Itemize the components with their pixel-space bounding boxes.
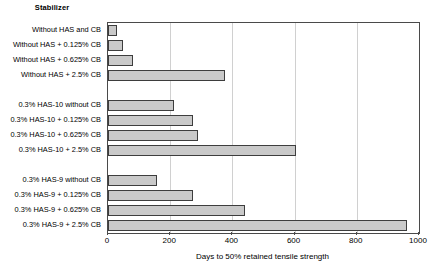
category-label: 0.3% HAS-10 + 0.125% CB bbox=[10, 115, 101, 124]
category-label-row: 0.3% HAS-10 without CB bbox=[0, 97, 104, 112]
category-label-row: Without HAS + 0.625% CB bbox=[0, 52, 104, 67]
bar bbox=[108, 115, 193, 126]
category-label-row: 0.3% HAS-9 without CB bbox=[0, 172, 104, 187]
category-axis: Without HAS and CBWithout HAS + 0.125% C… bbox=[0, 22, 104, 232]
bar bbox=[108, 145, 296, 156]
x-axis-tick-label: 1000 bbox=[398, 236, 438, 245]
bar-row bbox=[108, 203, 419, 218]
category-label-row: 0.3% HAS-10 + 0.125% CB bbox=[0, 112, 104, 127]
plot-area bbox=[107, 22, 420, 234]
category-label: 0.3% HAS-10 + 2.5% CB bbox=[19, 145, 101, 154]
bar-row bbox=[108, 23, 419, 38]
category-spacer bbox=[0, 82, 104, 97]
bar bbox=[108, 55, 133, 66]
bar-row bbox=[108, 38, 419, 53]
x-axis-tick-label: 800 bbox=[336, 236, 376, 245]
bar-row bbox=[108, 113, 419, 128]
bar bbox=[108, 130, 198, 141]
category-label-row: 0.3% HAS-10 + 0.625% CB bbox=[0, 127, 104, 142]
x-axis-tick bbox=[356, 232, 357, 235]
category-label-row: 0.3% HAS-9 + 2.5% CB bbox=[0, 217, 104, 232]
x-axis-tick-labels: 02004006008001000 bbox=[0, 236, 439, 248]
category-label-row: 0.3% HAS-9 + 0.625% CB bbox=[0, 202, 104, 217]
bar-row-empty bbox=[108, 83, 419, 98]
bar-chart: Stabilizer Without HAS and CBWithout HAS… bbox=[0, 0, 439, 270]
x-axis-tick bbox=[294, 232, 295, 235]
bar bbox=[108, 100, 174, 111]
bars-layer bbox=[108, 23, 419, 233]
category-spacer bbox=[0, 157, 104, 172]
bar-row-empty bbox=[108, 158, 419, 173]
category-label: 0.3% HAS-9 + 0.625% CB bbox=[15, 205, 101, 214]
bar-row bbox=[108, 188, 419, 203]
bar bbox=[108, 25, 117, 36]
category-label: 0.3% HAS-10 without CB bbox=[18, 100, 101, 109]
category-label: Without HAS and CB bbox=[32, 25, 101, 34]
category-label-row: Without HAS + 2.5% CB bbox=[0, 67, 104, 82]
category-label: 0.3% HAS-9 without CB bbox=[23, 175, 101, 184]
category-label-row: Without HAS + 0.125% CB bbox=[0, 37, 104, 52]
x-axis-tick-label: 0 bbox=[87, 236, 127, 245]
bar-row bbox=[108, 143, 419, 158]
x-axis-tick-label: 400 bbox=[211, 236, 251, 245]
category-label: 0.3% HAS-10 + 0.625% CB bbox=[10, 130, 101, 139]
bar bbox=[108, 220, 407, 231]
category-label: 0.3% HAS-9 + 0.125% CB bbox=[15, 190, 101, 199]
category-label: Without HAS + 0.625% CB bbox=[13, 55, 101, 64]
bar-row bbox=[108, 173, 419, 188]
x-axis-tick-label: 600 bbox=[274, 236, 314, 245]
stabilizer-column-header: Stabilizer bbox=[0, 3, 104, 12]
bar bbox=[108, 70, 225, 81]
bar bbox=[108, 40, 123, 51]
bar bbox=[108, 205, 245, 216]
x-axis-tick bbox=[231, 232, 232, 235]
category-label-row: 0.3% HAS-9 + 0.125% CB bbox=[0, 187, 104, 202]
bar bbox=[108, 175, 157, 186]
bar-row bbox=[108, 68, 419, 83]
bar-row bbox=[108, 98, 419, 113]
bar bbox=[108, 190, 193, 201]
category-label-row: Without HAS and CB bbox=[0, 22, 104, 37]
bar-row bbox=[108, 128, 419, 143]
category-label-row: 0.3% HAS-10 + 2.5% CB bbox=[0, 142, 104, 157]
x-axis-tick bbox=[418, 232, 419, 235]
x-axis-title: Days to 50% retained tensile strength bbox=[107, 252, 418, 261]
x-axis-tick-label: 200 bbox=[149, 236, 189, 245]
category-label: Without HAS + 0.125% CB bbox=[13, 40, 101, 49]
x-axis-tick bbox=[169, 232, 170, 235]
bar-row bbox=[108, 53, 419, 68]
bar-row bbox=[108, 218, 419, 233]
category-label: Without HAS + 2.5% CB bbox=[21, 70, 101, 79]
x-axis-tick bbox=[107, 232, 108, 235]
category-label: 0.3% HAS-9 + 2.5% CB bbox=[23, 220, 101, 229]
